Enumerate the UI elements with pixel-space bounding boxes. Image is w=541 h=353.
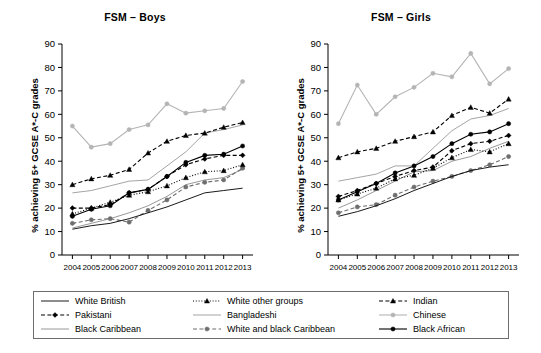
data-point-marker <box>506 154 510 158</box>
data-point-marker <box>506 67 510 71</box>
data-point-marker <box>164 183 169 188</box>
data-point-marker <box>430 129 435 134</box>
data-point-marker <box>183 133 188 138</box>
data-point-marker <box>488 82 492 86</box>
data-point-marker <box>355 205 359 209</box>
panel-boys: FSM – Boys % achieving 5+ GCSE A*-C grad… <box>0 0 270 288</box>
legend-key-triangle-icon <box>378 295 408 307</box>
data-point-marker <box>240 144 244 148</box>
data-point-marker <box>203 109 207 113</box>
y-tick-label: 30 <box>44 179 55 190</box>
series-line <box>338 157 508 213</box>
y-tick-label: 80 <box>44 62 55 73</box>
data-point-marker <box>222 106 226 110</box>
data-point-marker <box>146 187 150 191</box>
data-point-marker <box>184 185 188 189</box>
x-tick-label: 2006 <box>101 263 119 272</box>
legend-item: White and black Caribbean <box>192 322 378 336</box>
data-point-marker <box>393 95 397 99</box>
y-tick-label: 60 <box>310 109 321 120</box>
plot-area-boys: 0102030405060708090200420052006200720082… <box>0 0 270 288</box>
y-tick-label: 10 <box>44 226 55 237</box>
legend-key-none-icon <box>40 323 70 335</box>
data-point-marker <box>145 150 150 155</box>
data-point-marker <box>468 141 473 146</box>
data-point-marker <box>355 83 359 87</box>
x-tick-label: 2013 <box>500 263 518 272</box>
legend-label: Indian <box>413 297 438 306</box>
legend-item: Indian <box>378 294 516 308</box>
legend-label: White and black Caribbean <box>227 325 335 334</box>
data-point-marker <box>240 162 245 167</box>
series-line <box>338 165 508 217</box>
series-line <box>72 188 242 229</box>
x-tick-label: 2010 <box>177 263 195 272</box>
x-tick-label: 2013 <box>234 263 252 272</box>
legend-label: Black Caribbean <box>75 325 141 334</box>
y-tick-label: 0 <box>50 249 55 260</box>
x-tick-label: 2012 <box>481 263 499 272</box>
data-point-marker <box>336 211 340 215</box>
x-tick-label: 2008 <box>139 263 157 272</box>
data-point-marker <box>393 193 397 197</box>
y-tick-label: 80 <box>310 62 321 73</box>
data-point-marker <box>412 185 416 189</box>
x-tick-label: 2009 <box>424 263 442 272</box>
figure-root: FSM – Boys % achieving 5+ GCSE A*-C grad… <box>0 0 541 353</box>
data-point-marker <box>165 102 169 106</box>
data-point-marker <box>488 130 492 134</box>
data-point-marker <box>184 160 188 164</box>
data-point-marker <box>468 147 473 152</box>
data-point-marker <box>431 71 435 75</box>
y-tick-label: 90 <box>310 38 321 49</box>
x-tick-label: 2005 <box>348 263 366 272</box>
data-point-marker <box>240 79 244 83</box>
data-point-marker <box>506 133 511 138</box>
x-tick-label: 2005 <box>82 263 100 272</box>
series-line <box>338 53 508 123</box>
data-point-marker <box>412 164 416 168</box>
data-point-marker <box>393 171 397 175</box>
data-point-marker <box>374 181 378 185</box>
data-point-marker <box>70 221 74 225</box>
legend-label: White British <box>75 297 126 306</box>
data-point-marker <box>146 123 150 127</box>
y-tick-label: 20 <box>44 202 55 213</box>
series-line <box>338 144 508 200</box>
x-tick-label: 2007 <box>120 263 138 272</box>
data-point-marker <box>468 105 473 110</box>
legend-key-none-icon <box>40 295 70 307</box>
series-line <box>338 124 508 200</box>
y-tick-label: 40 <box>310 156 321 167</box>
x-tick-label: 2006 <box>367 263 385 272</box>
legend-key-circle-icon <box>378 309 408 321</box>
x-tick-label: 2011 <box>196 263 214 272</box>
data-point-marker <box>240 120 245 125</box>
data-point-marker <box>355 190 359 194</box>
y-tick-label: 30 <box>310 179 321 190</box>
data-point-marker <box>240 153 245 158</box>
data-point-marker <box>506 122 510 126</box>
data-point-marker <box>506 96 511 101</box>
data-point-marker <box>164 139 169 144</box>
data-point-marker <box>222 178 226 182</box>
data-point-marker <box>488 163 492 167</box>
data-point-marker <box>391 327 395 331</box>
legend-key-none-icon <box>192 309 222 321</box>
y-tick-label: 70 <box>310 85 321 96</box>
y-tick-label: 40 <box>44 156 55 167</box>
legend-label: Pakistani <box>75 311 112 320</box>
legend-item: Bangladeshi <box>192 308 378 322</box>
legend-item: Chinese <box>378 308 516 322</box>
series-line <box>72 82 242 148</box>
y-tick-label: 10 <box>310 226 321 237</box>
series-line <box>338 108 508 181</box>
data-point-marker <box>127 220 131 224</box>
data-point-marker <box>89 207 93 211</box>
x-tick-label: 2007 <box>386 263 404 272</box>
y-tick-label: 70 <box>44 85 55 96</box>
legend-key-circle-icon <box>378 323 408 335</box>
data-point-marker <box>487 139 492 144</box>
data-point-marker <box>165 198 169 202</box>
data-point-marker <box>374 186 379 191</box>
